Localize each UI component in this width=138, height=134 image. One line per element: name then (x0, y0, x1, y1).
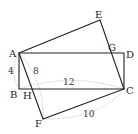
label-g: G (108, 42, 116, 53)
label-e: E (95, 9, 102, 20)
measure-ac: 12 (63, 77, 74, 87)
label-a: A (8, 48, 17, 59)
label-c: C (126, 85, 134, 96)
label-f: F (35, 118, 42, 129)
measure-fc: 10 (83, 109, 95, 119)
measure-ab: 4 (8, 66, 14, 76)
label-d: D (126, 49, 134, 60)
geometry-diagram: A B C D E F G H 4 8 12 10 (0, 0, 138, 134)
measure-af: 8 (33, 66, 39, 76)
label-h: H (23, 90, 32, 101)
label-b: B (10, 89, 17, 100)
